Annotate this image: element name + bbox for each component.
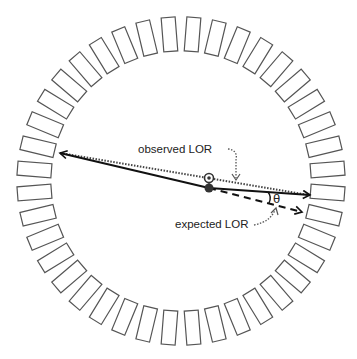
detector-block: [306, 136, 342, 158]
observed-point-core: [207, 176, 211, 180]
detector-block: [112, 298, 138, 335]
detector-block: [224, 27, 250, 64]
detector-block: [298, 112, 335, 138]
detector-block: [224, 298, 250, 335]
detector-block: [17, 161, 52, 178]
detector-block: [20, 136, 56, 158]
detector-block: [310, 184, 345, 201]
detector-block: [20, 205, 56, 227]
detector-block: [161, 17, 178, 52]
angle-arc: [268, 192, 270, 203]
observed-pointer: [228, 149, 236, 178]
detector-block: [161, 310, 178, 345]
detector-block: [27, 224, 64, 250]
expected-lor-label: expected LOR: [175, 218, 249, 230]
detector-block: [306, 205, 342, 227]
detector-block: [184, 310, 201, 345]
detector-block: [205, 306, 227, 342]
detector-block: [298, 224, 335, 250]
detector-block: [17, 184, 52, 201]
detector-block: [27, 112, 64, 138]
diagram-canvas: [0, 0, 357, 359]
theta-label: θ: [273, 191, 280, 206]
pet-diagram: observed LOR expected LOR θ: [0, 0, 357, 359]
emission-point: [205, 184, 214, 193]
detector-block: [184, 17, 201, 52]
detector-block: [310, 161, 345, 178]
detector-block: [112, 27, 138, 64]
observed-lor-label: observed LOR: [138, 143, 212, 155]
detector-block: [136, 20, 158, 56]
solid-path-left: [60, 153, 209, 188]
observed-lor-line: [60, 153, 309, 195]
detector-block: [205, 20, 227, 56]
detector-block: [136, 306, 158, 342]
